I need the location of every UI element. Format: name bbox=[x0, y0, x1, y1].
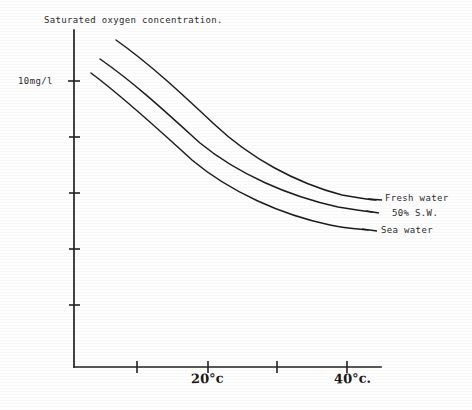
x-tick-label-20: 20°c bbox=[191, 372, 224, 386]
chart-figure: Saturated oxygen concentration. 10mg/l bbox=[0, 0, 472, 410]
curve-50-percent-sw bbox=[100, 59, 372, 212]
legend-label-fresh-water: Fresh water bbox=[385, 194, 448, 203]
legend-label-50-percent-sw: 50% S.W. bbox=[392, 209, 438, 218]
curve-sea-water bbox=[91, 73, 368, 230]
curve-fresh-water bbox=[116, 40, 376, 200]
legend-label-sea-water: Sea water bbox=[381, 226, 433, 235]
x-tick-label-40: 40°c. bbox=[334, 372, 371, 386]
legend-leader-lines bbox=[362, 199, 382, 231]
plot-area bbox=[0, 0, 472, 410]
